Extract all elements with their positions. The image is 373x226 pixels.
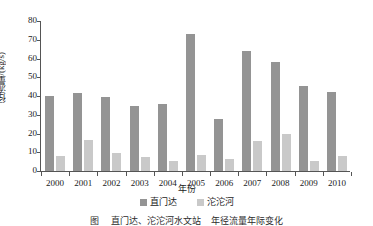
caption-text: 直门达、沱沱河水文站 [111, 216, 201, 226]
plot-area: 01020304050607080 2000200120022003200420… [40, 22, 350, 172]
legend-swatch-icon [140, 199, 147, 206]
bar [45, 96, 54, 171]
bar [141, 157, 150, 171]
x-axis-title: 年份 [0, 184, 373, 195]
y-tick-mark [37, 96, 41, 97]
bar [197, 155, 206, 171]
figure-chart: 径流量/(kg/s) 01020304050607080 20002001200… [0, 0, 373, 226]
x-tick-mark [238, 172, 239, 176]
figure-caption: 图 直门达、沱沱河水文站年径流量年际变化 [0, 215, 373, 226]
chart-legend: 直门达 沱沱河 [0, 197, 373, 208]
bar [271, 62, 280, 171]
bar [101, 97, 110, 171]
x-tick-mark [323, 172, 324, 176]
x-tick-mark [295, 172, 296, 176]
y-tick-label: 30 [0, 109, 37, 120]
bar [84, 140, 93, 171]
y-tick-mark [37, 21, 41, 22]
y-tick-label: 0 [0, 165, 37, 176]
caption-figure-number: 图 [90, 216, 101, 226]
x-tick-mark [266, 172, 267, 176]
bar [130, 106, 139, 171]
y-tick-mark [37, 134, 41, 135]
bar [73, 93, 82, 171]
x-tick-mark [126, 172, 127, 176]
legend-item-0[interactable]: 直门达 [140, 197, 177, 208]
y-tick-label: 40 [0, 90, 37, 101]
x-tick-mark [97, 172, 98, 176]
x-tick-mark [351, 172, 352, 176]
bar [299, 86, 308, 171]
bar [158, 104, 167, 171]
y-tick-label: 80 [0, 15, 37, 26]
y-tick-label: 50 [0, 71, 37, 82]
bar [338, 156, 347, 171]
y-tick-mark [37, 40, 41, 41]
legend-swatch-icon [197, 199, 204, 206]
x-tick-mark [210, 172, 211, 176]
bar [225, 159, 234, 171]
y-tick-label: 70 [0, 34, 37, 45]
bar [186, 34, 195, 171]
y-tick-mark [37, 115, 41, 116]
legend-label-1: 沱沱河 [207, 197, 234, 208]
bar [112, 153, 121, 171]
y-tick-mark [37, 152, 41, 153]
bar [242, 51, 251, 171]
y-tick-label: 20 [0, 128, 37, 139]
x-tick-mark [154, 172, 155, 176]
legend-label-0: 直门达 [150, 197, 177, 208]
x-tick-mark [69, 172, 70, 176]
bar [169, 161, 178, 171]
bar [56, 156, 65, 171]
y-tick-mark [37, 59, 41, 60]
legend-item-1[interactable]: 沱沱河 [197, 197, 234, 208]
x-tick-mark [41, 172, 42, 176]
caption-text-2: 年径流量年际变化 [211, 216, 283, 226]
bar [253, 141, 262, 171]
x-tick-mark [182, 172, 183, 176]
y-tick-mark [37, 77, 41, 78]
bar [327, 92, 336, 171]
bar [282, 134, 291, 172]
y-tick-label: 60 [0, 53, 37, 64]
bar [310, 161, 319, 171]
y-tick-label: 10 [0, 146, 37, 157]
bar [214, 119, 223, 172]
